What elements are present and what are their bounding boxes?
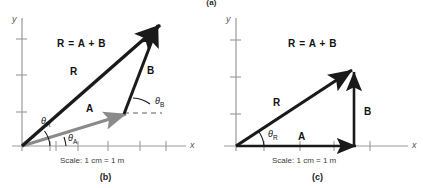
angle-subscript-r: R xyxy=(46,121,51,128)
vector-label-r: R xyxy=(273,97,280,108)
angle-subscript-b: B xyxy=(160,101,164,108)
vector-label-a: A xyxy=(298,131,305,142)
equation-label: R = A + B xyxy=(57,38,106,49)
angle-label-theta-r: θR xyxy=(268,129,278,141)
angle-label-theta-a: θA xyxy=(68,133,77,145)
vector-addition-figure: (a) xyxy=(0,0,423,188)
vector-label-b: B xyxy=(364,106,371,117)
angle-subscript-a: A xyxy=(73,138,77,145)
equation-label: R = A + B xyxy=(288,38,337,49)
panel-b-caption: (b) xyxy=(0,172,211,182)
angle-label-theta-r: θR xyxy=(41,116,51,128)
scale-note-c: Scale: 1 cm = 1 m xyxy=(272,156,336,165)
angle-arc-theta-a xyxy=(64,137,66,146)
y-axis-label: y xyxy=(226,14,231,24)
vector-label-b: B xyxy=(147,65,154,76)
angle-subscript-r: R xyxy=(273,134,278,141)
vector-label-a: A xyxy=(86,103,93,114)
y-axis-label: y xyxy=(12,14,17,24)
angle-label-theta-b: θB xyxy=(155,96,164,108)
panel-c-caption: (c) xyxy=(212,172,423,182)
x-axis-label: x xyxy=(190,140,195,150)
angle-arc-theta-b xyxy=(133,98,150,104)
vector-r xyxy=(236,70,352,146)
angle-arc-theta-r xyxy=(259,132,264,146)
vector-label-r: R xyxy=(70,66,77,77)
x-axis-label: x xyxy=(412,140,417,150)
scale-note-b: Scale: 1 cm = 1 m xyxy=(60,156,124,165)
